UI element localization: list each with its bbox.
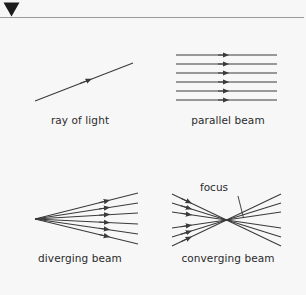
caption-ray-of-light: ray of light <box>0 114 160 126</box>
ray-arrowhead-icon <box>80 80 89 84</box>
caption-diverging-beam: diverging beam <box>0 252 160 264</box>
caption-parallel-beam: parallel beam <box>150 114 306 126</box>
panel-diverging-beam <box>35 193 138 244</box>
diverging-ray <box>35 203 138 219</box>
diverging-arrowhead-icon <box>99 208 107 209</box>
diverging-arrowhead-icon <box>99 201 107 203</box>
caption-converging-beam: converging beam <box>150 252 306 264</box>
converging-arrowhead-icon <box>181 238 189 242</box>
diverging-ray <box>35 213 138 219</box>
diverging-arrowhead-icon <box>99 228 107 229</box>
converging-arrowhead-icon <box>181 198 189 202</box>
converging-arrowhead-icon <box>181 226 189 227</box>
panel-parallel-beam <box>176 55 277 100</box>
header-group <box>0 3 304 18</box>
converging-arrowhead-icon <box>181 206 189 209</box>
light-beam-diagram <box>0 0 306 295</box>
focus-annotation-label: focus <box>200 181 228 193</box>
panel-ray-of-light <box>35 63 133 101</box>
converging-arrowhead-icon <box>181 213 189 214</box>
converging-arrowhead-icon <box>181 232 189 235</box>
diverging-ray <box>35 193 138 219</box>
triangle-down-icon[interactable] <box>4 3 20 17</box>
figure-root: focus ray of light parallel beam divergi… <box>0 0 306 295</box>
diverging-arrowhead-icon <box>99 215 107 216</box>
panel-converging-beam <box>172 194 281 246</box>
